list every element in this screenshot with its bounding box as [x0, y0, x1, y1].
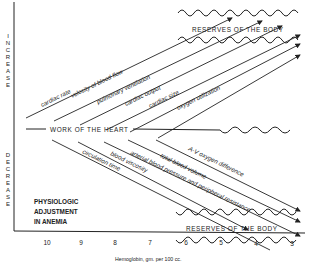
svg-text:C: C — [6, 166, 11, 172]
svg-text:IN ANEMIA: IN ANEMIA — [34, 218, 68, 225]
reserves-bottom-wave-lower — [176, 237, 296, 243]
svg-text:E: E — [6, 201, 10, 207]
svg-text:6: 6 — [184, 239, 188, 246]
svg-text:arterial blood pressure and pe: arterial blood pressure and peripheral r… — [130, 149, 253, 214]
svg-text:PHYSIOLOGIC: PHYSIOLOGIC — [34, 198, 79, 205]
svg-text:10: 10 — [43, 239, 51, 246]
work-of-heart-line-right — [133, 127, 290, 133]
svg-text:5: 5 — [219, 239, 223, 246]
decrease-line-labels: A-V oxygen difference total blood volume… — [82, 144, 253, 213]
svg-text:R: R — [6, 54, 11, 60]
svg-text:oxygen utilization: oxygen utilization — [175, 84, 221, 111]
svg-text:7: 7 — [148, 239, 152, 246]
svg-text:3: 3 — [290, 240, 294, 247]
svg-text:N: N — [6, 40, 10, 46]
svg-text:S: S — [6, 75, 10, 81]
svg-text:R: R — [6, 173, 11, 179]
svg-text:S: S — [6, 194, 10, 200]
svg-text:E: E — [6, 180, 10, 186]
svg-text:9: 9 — [79, 239, 83, 246]
reserves-top-wave-lower — [178, 37, 298, 43]
svg-text:E: E — [6, 82, 10, 88]
svg-text:cardiac rate: cardiac rate — [39, 87, 72, 108]
increase-label: I N C R E A S E — [6, 33, 11, 88]
svg-text:E: E — [6, 61, 10, 67]
svg-text:D: D — [6, 152, 11, 158]
svg-text:C: C — [6, 47, 11, 53]
reserves-top-wave-upper — [178, 10, 298, 16]
x-axis-title: Hemoglobin, gm. per 100 cc. — [115, 256, 181, 262]
physiologic-adjustment-note: PHYSIOLOGIC ADJUSTMENT IN ANEMIA — [34, 198, 79, 225]
svg-text:A: A — [6, 68, 10, 74]
svg-text:E: E — [6, 159, 10, 165]
svg-text:A: A — [6, 187, 10, 193]
svg-text:8: 8 — [113, 239, 117, 246]
anemia-adjustment-diagram: I N C R E A S E D E C R E A S E RESERVES… — [0, 0, 309, 268]
svg-text:4: 4 — [254, 240, 258, 247]
x-axis-ticks: 10 9 8 7 6 5 4 3 — [43, 239, 294, 247]
decrease-label: D E C R E A S E — [6, 152, 11, 207]
increase-lines — [26, 18, 300, 138]
reserves-bottom-label: RESERVES OF THE BODY — [186, 225, 278, 232]
svg-text:I: I — [7, 33, 9, 39]
work-of-heart-label: WORK OF THE HEART — [50, 126, 129, 133]
increase-line-labels: cardiac rate velocity of blood flow pulm… — [39, 67, 221, 111]
svg-text:ADJUSTMENT: ADJUSTMENT — [34, 208, 78, 215]
